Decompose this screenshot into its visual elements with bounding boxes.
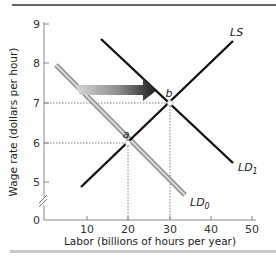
ld1-label: LD1 (238, 161, 258, 176)
labor-market-chart: Wage rate (dollars per hour) 9 8 7 6 5 0… (0, 0, 276, 257)
y-tick-label: 8 (33, 57, 40, 70)
point-b-marker (167, 100, 172, 105)
y-axis-title: Wage rate (dollars per hour) (7, 48, 19, 197)
origin-label: 0 (33, 214, 40, 227)
point-a-marker (125, 140, 130, 145)
point-b-label: b (166, 87, 173, 100)
x-ticks (87, 216, 252, 220)
ld0-label-main: LD (190, 196, 205, 209)
point-a-label: a (123, 128, 130, 141)
ld1-curve (101, 39, 233, 163)
x-tick-label: 50 (245, 223, 259, 236)
y-tick-label: 9 (33, 18, 40, 31)
ld1-label-sub: 1 (253, 167, 258, 176)
y-tick-label: 5 (33, 176, 40, 189)
ld0-label: LD0 (190, 196, 210, 211)
y-tick-label: 6 (33, 137, 40, 150)
ls-label: LS (230, 26, 243, 39)
ld1-label-main: LD (238, 161, 253, 174)
ld0-curve (56, 65, 185, 195)
y-tick-label: 7 (33, 97, 40, 110)
bottom-rule (10, 250, 276, 253)
ld0-label-sub: 0 (205, 202, 210, 211)
x-axis-title: Labor (billions of hours per year) (64, 235, 236, 247)
